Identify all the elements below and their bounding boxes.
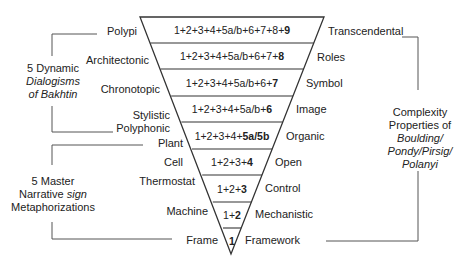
right-label-control: Control xyxy=(265,182,300,195)
right-label-image: Image xyxy=(296,103,327,116)
right-label-roles: Roles xyxy=(317,51,345,64)
left-label-frame: Frame xyxy=(186,234,218,247)
formula-level-7: 1+2+3+4+5a/b+6+7 xyxy=(162,77,302,89)
formula-level-9: 1+2+3+4+5a/b+6+7+8+9 xyxy=(162,24,302,36)
group-label-complexity: Complexity Properties of Boulding/ Pondy… xyxy=(384,106,456,171)
left-label-machine: Machine xyxy=(166,205,208,218)
formula-level-6: 1+2+3+4+5a/b+6 xyxy=(162,103,302,115)
formula-level-8: 1+2+3+4+5a/b+6+7+8 xyxy=(162,50,302,62)
left-label-polypi: Polypi xyxy=(107,25,137,38)
formula-level-5: 1+2+3+4+5a/5b xyxy=(162,130,302,142)
left-label-architectonic: Architectonic xyxy=(86,54,149,67)
left-label-polyphonic: Polyphonic xyxy=(116,122,170,135)
left-label-chronotopic: Chronotopic xyxy=(101,83,160,96)
group-label-metaphorizations: 5 Master Narrative sign Metaphorizations xyxy=(8,175,98,214)
right-label-transcendental: Transcendental xyxy=(328,25,403,38)
group-label-dialogisms: 5 Dynamic Dialogisms of Bakhtin xyxy=(22,62,84,101)
right-label-mechanistic: Mechanistic xyxy=(255,208,313,221)
right-label-framework: Framework xyxy=(245,234,300,247)
right-label-organic: Organic xyxy=(286,130,325,143)
left-label-plant: Plant xyxy=(158,137,183,150)
right-label-symbol: Symbol xyxy=(306,77,343,90)
left-label-stylistic: Stylistic xyxy=(133,109,170,122)
left-label-thermostat: Thermostat xyxy=(139,175,195,188)
left-label-cell: Cell xyxy=(164,156,183,169)
right-label-open: Open xyxy=(275,156,302,169)
